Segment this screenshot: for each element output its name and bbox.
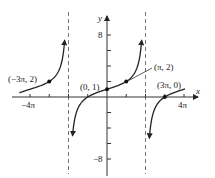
data-point xyxy=(124,80,128,84)
tick-label-y-neg8: −8 xyxy=(93,154,103,164)
curve-branch-middle-lower xyxy=(73,99,85,136)
point-label-3pi: (3π, 0) xyxy=(157,80,181,90)
point-label-origin: (0, 1) xyxy=(80,82,100,92)
point-label-neg3pi: (−3π, 2) xyxy=(8,74,37,84)
tick-label-x-neg4pi: −4π xyxy=(21,100,36,110)
tick-label-y-8: 8 xyxy=(98,30,103,40)
y-axis-label: y xyxy=(97,13,102,23)
point-label-pi: (π, 2) xyxy=(154,62,174,72)
chart-svg: x y −4π 4π 8 −8 (−3π, 2) (0, 1) (π, 2) (… xyxy=(0,0,215,178)
x-axis-label: x xyxy=(195,86,200,96)
data-point xyxy=(47,80,51,84)
tangent-graph: x y −4π 4π 8 −8 (−3π, 2) (0, 1) (π, 2) (… xyxy=(0,0,215,178)
curve-branch-right-upper xyxy=(165,89,185,97)
tick-label-x-4pi: 4π xyxy=(178,100,188,110)
data-point xyxy=(163,95,167,99)
curve-branch-left xyxy=(19,40,64,93)
curve-branch-right xyxy=(149,97,164,138)
leader-line-pi xyxy=(126,68,152,82)
data-point xyxy=(105,87,109,91)
